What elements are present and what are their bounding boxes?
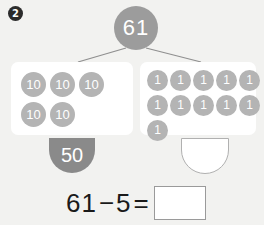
tens-disc-row: 10 10 10 <box>21 72 108 97</box>
ones-disc: 1 <box>147 95 168 116</box>
equation: 61 − 5 = <box>66 186 206 220</box>
tens-disc: 10 <box>21 72 46 97</box>
problem-number-badge: 2 <box>8 6 23 21</box>
equation-subtrahend: 5 <box>116 188 131 219</box>
ones-disc: 1 <box>216 70 237 91</box>
equation-minuend: 61 <box>66 188 97 219</box>
tens-disc: 10 <box>50 102 75 127</box>
tens-disc: 10 <box>21 102 46 127</box>
tens-disc: 10 <box>79 72 104 97</box>
ones-disc: 1 <box>239 70 260 91</box>
ones-disc: 1 <box>193 70 214 91</box>
ones-disc: 1 <box>239 95 260 116</box>
ones-group-card: 1 1 1 1 1 1 1 1 1 1 1 <box>140 62 256 135</box>
ones-disc: 1 <box>147 120 168 141</box>
ones-value-input[interactable] <box>181 138 229 174</box>
tens-disc: 10 <box>50 72 75 97</box>
equation-operator: − <box>99 188 114 219</box>
branch-line-right <box>146 48 201 62</box>
tens-group-card: 10 10 10 10 10 <box>11 62 133 135</box>
ones-disc: 1 <box>170 70 191 91</box>
ones-disc: 1 <box>170 95 191 116</box>
number-bond-total: 61 <box>114 6 158 50</box>
equation-answer-input[interactable] <box>154 186 206 220</box>
ones-disc: 1 <box>193 95 214 116</box>
ones-disc: 1 <box>147 70 168 91</box>
tens-value-label: 50 <box>49 138 95 173</box>
ones-disc-row: 1 1 1 1 1 <box>147 95 262 116</box>
ones-disc-row: 1 <box>147 120 170 141</box>
worksheet-page: 2 61 10 10 10 10 10 1 1 1 1 1 1 1 1 1 1 <box>0 0 264 225</box>
ones-disc: 1 <box>216 95 237 116</box>
branch-line-left <box>78 48 126 62</box>
tens-disc-row: 10 10 <box>21 102 79 127</box>
ones-disc-row: 1 1 1 1 1 <box>147 70 262 91</box>
equation-equals-sign: = <box>134 188 149 219</box>
